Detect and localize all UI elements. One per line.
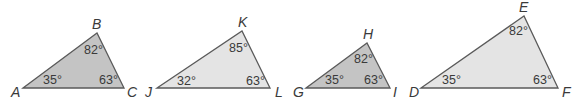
angle-label-i: 63° <box>364 73 383 87</box>
angle-label-j: 32° <box>177 74 196 88</box>
vertex-label-f: F <box>562 84 572 100</box>
angle-label-b: 82° <box>84 43 103 57</box>
angle-label-f: 63° <box>533 73 552 87</box>
vertex-label-h: H <box>363 26 374 42</box>
vertex-label-k: K <box>238 14 248 30</box>
similar-triangles-diagram: A B C 35° 82° 63° J K L 32° 85° 63° G H … <box>0 0 576 100</box>
angle-label-k: 85° <box>229 41 248 55</box>
vertex-label-d: D <box>409 84 419 100</box>
angle-label-d: 35° <box>442 73 461 87</box>
triangle-jkl: J K L 32° 85° 63° <box>144 14 283 100</box>
vertex-label-b: B <box>92 16 101 32</box>
vertex-label-a: A <box>10 84 20 100</box>
triangle-abc: A B C 35° 82° 63° <box>10 16 138 100</box>
vertex-label-e: E <box>519 0 529 15</box>
angle-label-e: 82° <box>509 24 528 38</box>
angle-label-g: 35° <box>325 73 344 87</box>
triangle-def: D E F 35° 82° 63° <box>409 0 572 100</box>
angle-label-h: 82° <box>354 52 373 66</box>
vertex-label-l: L <box>275 84 283 100</box>
angle-label-l: 63° <box>246 74 265 88</box>
vertex-label-i: I <box>393 84 397 100</box>
vertex-label-c: C <box>127 84 138 100</box>
triangle-ghi: G H I 35° 82° 63° <box>293 26 397 100</box>
angle-label-c: 63° <box>99 73 118 87</box>
vertex-label-j: J <box>144 84 153 100</box>
angle-label-a: 35° <box>43 73 62 87</box>
vertex-label-g: G <box>293 84 304 100</box>
